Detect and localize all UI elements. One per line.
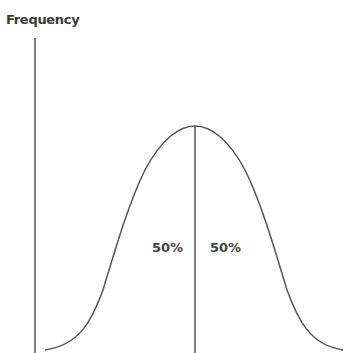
bell-curve <box>45 126 343 350</box>
bell-curve-diagram <box>0 0 346 353</box>
right-half-percentage: 50% <box>210 240 241 255</box>
left-half-percentage: 50% <box>152 240 183 255</box>
